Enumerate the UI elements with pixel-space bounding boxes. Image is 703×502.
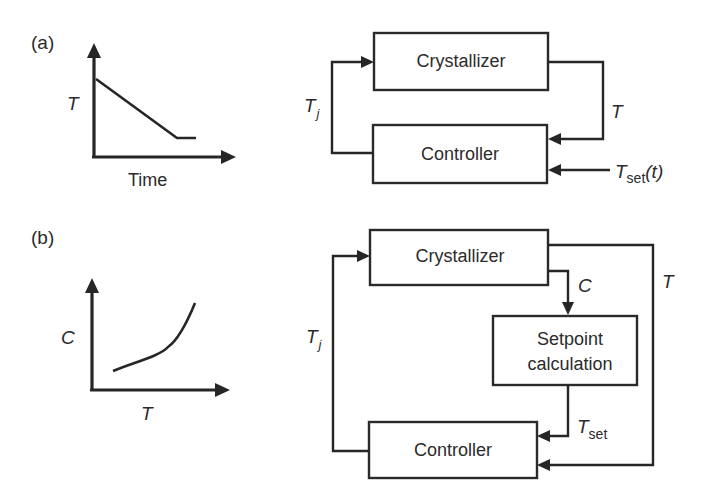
panel-a-label: (a) (31, 32, 54, 53)
panel-b-label: (b) (31, 227, 54, 248)
x-axis-arrow-icon (215, 383, 230, 397)
temp-label-a: T (611, 101, 624, 122)
temp-arrow-icon-b (537, 459, 550, 471)
y-axis-label: C (61, 327, 75, 348)
setpoint-arrow-icon-b (537, 430, 550, 442)
panel-a-temperature-time-graph: T Time (67, 43, 236, 190)
temp-arrow-icon-a (548, 133, 561, 145)
concentration-arrow-icon (562, 302, 574, 315)
setpoint-calculation-label-line2: calculation (527, 354, 612, 374)
temp-signal-a (549, 62, 603, 139)
x-axis-label: T (141, 403, 154, 424)
concentration-signal (548, 271, 568, 305)
jacket-temp-signal-b (333, 256, 369, 451)
solubility-curve (113, 303, 195, 371)
cooling-profile-line (96, 79, 196, 138)
y-axis-label: T (67, 93, 80, 114)
jacket-temp-signal-a (332, 62, 373, 153)
y-axis-arrow-icon (85, 278, 99, 293)
setpoint-calculation-label-line1: Setpoint (537, 329, 603, 349)
crystallizer-block-a-label: Crystallizer (416, 51, 505, 71)
setpoint-calculation-block (493, 316, 637, 385)
setpoint-signal-b (547, 385, 568, 436)
jacket-temp-arrow-icon-a (361, 56, 374, 68)
temp-label-b: T (662, 271, 675, 292)
setpoint-label-b: Tset (577, 416, 607, 442)
jacket-temp-label-b: Tj (306, 326, 323, 352)
x-axis-label: Time (128, 170, 167, 190)
panel-b-concentration-temperature-graph: C T (61, 278, 230, 424)
panel-b: (b) C T Crystallizer Setpoint calculatio… (31, 227, 675, 478)
panel-a: (a) T Time Crystallizer Controller Tj T … (31, 32, 663, 190)
jacket-temp-label-a: Tj (304, 95, 321, 121)
setpoint-arrow-icon-a (548, 164, 561, 176)
x-axis-arrow-icon (221, 150, 236, 164)
crystallizer-control-diagram: (a) T Time Crystallizer Controller Tj T … (0, 0, 703, 502)
controller-block-b-label: Controller (414, 440, 492, 460)
jacket-temp-arrow-icon-b (357, 250, 370, 262)
crystallizer-block-b-label: Crystallizer (415, 246, 504, 266)
setpoint-label-a: Tset(t) (615, 161, 663, 186)
y-axis-arrow-icon (87, 43, 101, 58)
concentration-label: C (578, 275, 592, 296)
controller-block-a-label: Controller (421, 144, 499, 164)
